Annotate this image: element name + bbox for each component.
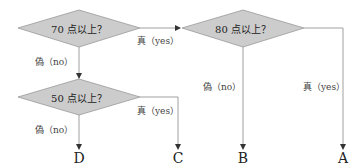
edge-label-q50-no: 偽（no） <box>35 123 73 136</box>
outcome-d: D <box>73 150 84 166</box>
edge-label-q70-yes: 真（yes） <box>137 34 179 47</box>
decision-label-70: 70 点以上？ <box>51 21 107 36</box>
edge-label-q80-yes: 真（yes） <box>303 80 345 93</box>
outcome-c: C <box>173 150 184 166</box>
edge-label-q70-no: 偽（no） <box>35 55 73 68</box>
decision-label-50: 50 点以上？ <box>51 90 107 105</box>
edge-label-q80-no: 偽（no） <box>203 80 241 93</box>
outcome-b: B <box>238 150 248 166</box>
edge-label-q50-yes: 真（yes） <box>137 104 179 117</box>
decision-label-80: 80 点以上？ <box>215 21 271 36</box>
outcome-a: A <box>338 150 348 166</box>
